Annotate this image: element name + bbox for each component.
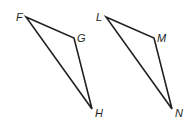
triangle-lmn-shape xyxy=(106,17,172,109)
triangles-diagram: F G H L M N xyxy=(0,0,191,122)
triangle-fgh: F G H xyxy=(16,11,103,119)
triangle-lmn: L M N xyxy=(96,11,183,119)
vertex-label-f: F xyxy=(16,11,24,23)
vertex-label-g: G xyxy=(77,32,86,44)
vertex-label-l: L xyxy=(96,11,102,23)
vertex-label-m: M xyxy=(157,32,167,44)
vertex-label-h: H xyxy=(95,107,103,119)
triangle-fgh-shape xyxy=(26,17,92,109)
vertex-label-n: N xyxy=(175,107,183,119)
